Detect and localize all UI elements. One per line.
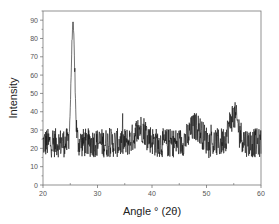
x-tick-label: 40 (148, 190, 156, 197)
y-axis-title: Intensity (7, 77, 19, 118)
x-tick-label: 30 (94, 190, 102, 197)
y-tick-label: 40 (30, 108, 38, 115)
x-axis-title: Angle ° (2θ) (123, 205, 181, 217)
x-tick-label: 60 (257, 190, 265, 197)
xrd-chart: 0102030405060708090 2030405060 Angle ° (… (0, 0, 279, 224)
y-tick-label: 90 (30, 17, 38, 24)
y-tick-label: 70 (30, 53, 38, 60)
y-axis-ticks: 0102030405060708090 (30, 11, 43, 189)
y-tick-label: 50 (30, 90, 38, 97)
y-tick-label: 80 (30, 35, 38, 42)
x-tick-label: 20 (39, 190, 47, 197)
data-line (43, 22, 261, 158)
y-tick-label: 10 (30, 163, 38, 170)
y-tick-label: 60 (30, 72, 38, 79)
y-tick-label: 30 (30, 127, 38, 134)
x-tick-label: 50 (203, 190, 211, 197)
y-tick-label: 20 (30, 145, 38, 152)
y-tick-label: 0 (34, 182, 38, 189)
